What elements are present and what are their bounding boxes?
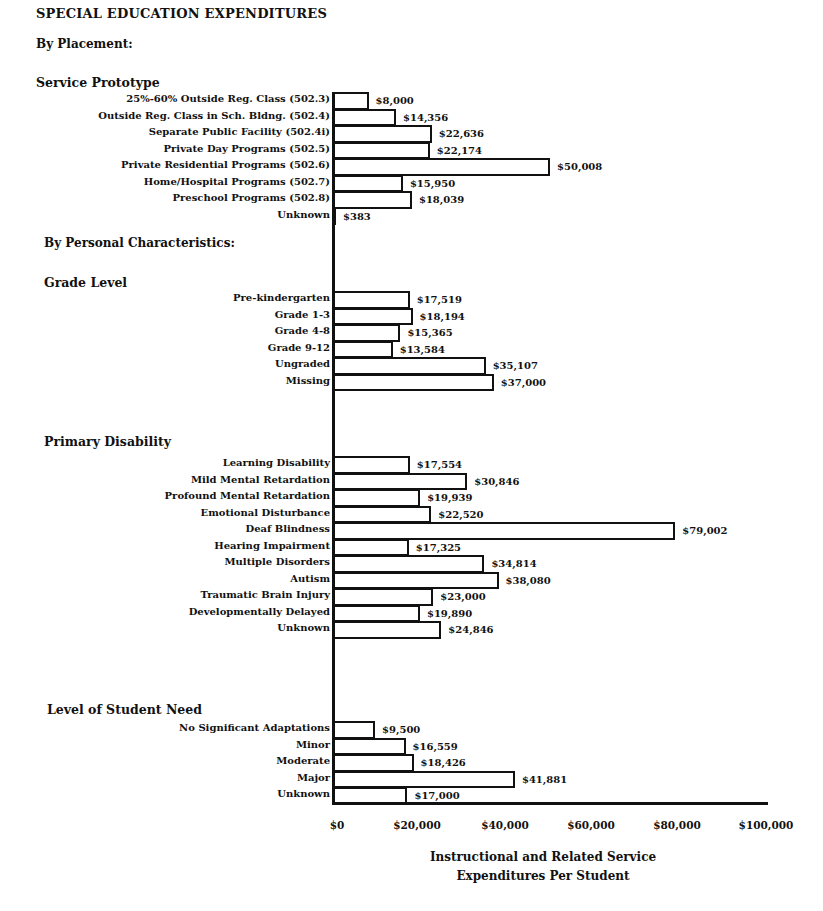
bar: [334, 291, 410, 309]
category-label: Pre-kindergarten: [233, 292, 330, 304]
value-label: $16,559: [413, 741, 458, 753]
y-axis-line: [332, 92, 335, 805]
value-label: $17,000: [414, 790, 459, 802]
value-label: $18,426: [421, 757, 466, 769]
category-label: Unknown: [277, 788, 330, 800]
value-label: $8,000: [376, 95, 414, 107]
x-tick-label: $80,000: [653, 819, 701, 831]
category-label: Outside Reg. Class in Sch. Bldng. (502.4…: [98, 110, 330, 122]
bar: [334, 324, 400, 342]
bar: [334, 555, 484, 573]
category-label: Separate Public Facility (502.4i): [149, 126, 330, 138]
category-label: Grade 4-8: [275, 325, 330, 337]
category-label: Moderate: [276, 755, 330, 767]
bar: [334, 109, 396, 127]
page-title: SPECIAL EDUCATION EXPENDITURES: [36, 6, 327, 21]
x-tick-label: $60,000: [567, 819, 615, 831]
bar: [334, 754, 414, 772]
bar: [334, 456, 410, 474]
category-label: Traumatic Brain Injury: [201, 589, 330, 601]
bar: [334, 191, 412, 209]
x-tick-label: $0: [330, 819, 345, 831]
category-label: Preschool Programs (502.8): [173, 192, 330, 204]
value-label: $37,000: [501, 377, 546, 389]
value-label: $15,365: [407, 327, 452, 339]
category-label: Ungraded: [275, 358, 330, 370]
bar: [334, 142, 430, 160]
bar: [334, 721, 375, 739]
bar: [334, 588, 433, 606]
bar: [334, 374, 494, 392]
category-label: Unknown: [277, 209, 330, 221]
x-axis-title-line-2: Expenditures Per Student: [343, 867, 743, 886]
bar: [334, 489, 420, 507]
value-label: $15,950: [410, 178, 455, 190]
category-label: Mild Mental Retardation: [191, 474, 330, 486]
x-tick-label: $20,000: [393, 819, 441, 831]
value-label: $17,554: [417, 459, 462, 471]
value-label: $17,325: [416, 542, 461, 554]
category-label: No Significant Adaptations: [179, 722, 330, 734]
value-label: $22,636: [439, 128, 484, 140]
bar: [334, 308, 413, 326]
value-label: $17,519: [417, 294, 462, 306]
value-label: $9,500: [382, 724, 420, 736]
bar: [334, 738, 406, 756]
bar: [334, 125, 432, 143]
value-label: $41,881: [522, 774, 567, 786]
value-label: $35,107: [493, 360, 538, 372]
category-label: Learning Disability: [223, 457, 330, 469]
category-label: 25%-60% Outside Reg. Class (502.3): [126, 93, 330, 105]
value-label: $383: [343, 211, 371, 223]
bar: [334, 572, 499, 590]
category-label: Grade 9-12: [268, 342, 330, 354]
value-label: $79,002: [682, 525, 727, 537]
value-label: $22,520: [438, 509, 483, 521]
category-label: Home/Hospital Programs (502.7): [144, 176, 330, 188]
x-axis-title-line-1: Instructional and Related Service: [343, 848, 743, 867]
value-label: $22,174: [437, 145, 482, 157]
section-by-placement: By Placement:: [36, 37, 133, 51]
value-label: $50,008: [557, 161, 602, 173]
bar: [334, 522, 675, 540]
bar: [334, 605, 420, 623]
category-label: Minor: [296, 739, 330, 751]
bar: [334, 357, 486, 375]
category-label: Developmentally Delayed: [189, 606, 330, 618]
category-label: Autism: [290, 573, 330, 585]
x-axis-line: [332, 802, 768, 805]
value-label: $19,939: [427, 492, 472, 504]
category-label: Grade 1-3: [275, 309, 330, 321]
section-by-personal-characteristics: By Personal Characteristics:: [44, 236, 235, 250]
category-label: Major: [297, 772, 330, 784]
category-label: Private Residential Programs (502.6): [121, 159, 330, 171]
value-label: $18,039: [419, 194, 464, 206]
bar: [334, 341, 393, 359]
x-tick-label: $100,000: [739, 819, 794, 831]
bar: [334, 621, 441, 639]
value-label: $30,846: [474, 476, 519, 488]
bar: [334, 473, 467, 491]
value-label: $13,584: [400, 344, 445, 356]
category-label: Multiple Disorders: [225, 556, 330, 568]
group-title-service-prototype: Service Prototype: [36, 75, 160, 90]
value-label: $34,814: [491, 558, 536, 570]
value-label: $14,356: [403, 112, 448, 124]
bar: [334, 175, 403, 193]
category-label: Hearing Impairment: [214, 540, 330, 552]
category-label: Profound Mental Retardation: [165, 490, 330, 502]
category-label: Emotional Disturbance: [201, 507, 330, 519]
value-label: $24,846: [448, 624, 493, 636]
bar: [334, 771, 515, 789]
category-label: Private Day Programs (502.5): [164, 143, 330, 155]
bar: [334, 92, 369, 110]
value-label: $19,890: [427, 608, 472, 620]
bar: [334, 506, 431, 524]
value-label: $23,000: [440, 591, 485, 603]
x-tick-label: $40,000: [481, 819, 529, 831]
category-label: Deaf Blindness: [245, 523, 330, 535]
bar: [334, 539, 409, 557]
bar: [334, 158, 550, 176]
category-label: Missing: [286, 375, 330, 387]
value-label: $18,194: [420, 311, 465, 323]
